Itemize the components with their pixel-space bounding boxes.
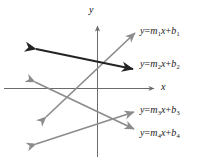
line-2-intercept-sub: 2 xyxy=(176,63,179,70)
graph-line-1 xyxy=(46,33,135,117)
graph-line-2 xyxy=(36,49,133,69)
graph-line-4 xyxy=(36,112,134,144)
line-4-intercept-sub: 4 xyxy=(176,132,179,139)
line-3-intercept-sub: 3 xyxy=(176,109,179,116)
line-2-slope-sub: 2 xyxy=(158,63,161,70)
equation-label-line-4: y=m4x+b4 xyxy=(140,127,180,138)
line-4-slope-sub: 4 xyxy=(158,132,161,139)
y-axis-label: y xyxy=(89,4,93,15)
line-3-slope-sub: 3 xyxy=(158,109,161,116)
line-4-slope: m xyxy=(150,127,157,138)
line-1-slope-sub: 1 xyxy=(158,30,161,37)
line-1-slope: m xyxy=(150,25,157,36)
x-axis-label: x xyxy=(161,81,165,92)
equation-label-line-2: y=m2x+b2 xyxy=(140,58,180,69)
coordinate-plane xyxy=(0,0,213,162)
line-2-slope: m xyxy=(150,58,157,69)
equation-label-line-1: y=m1x+b1 xyxy=(140,25,180,36)
line-1-intercept-sub: 1 xyxy=(176,30,179,37)
graph-line-3 xyxy=(35,82,134,129)
line-3-slope: m xyxy=(150,104,157,115)
equation-label-line-3: y=m3x+b3 xyxy=(140,104,180,115)
line-graph-figure: y x y=m1x+b1 y=m2x+b2 y=m3x+b3 y=m4x+b4 xyxy=(0,0,213,162)
